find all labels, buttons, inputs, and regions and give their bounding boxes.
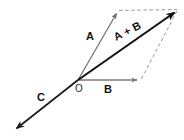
origin-label: O — [75, 84, 83, 94]
vector-diagram-canvas — [0, 0, 184, 140]
vector-c-label: C — [37, 92, 45, 103]
vector-c-arrow — [17, 80, 79, 129]
vector-addition-figure: A A + B B C O — [0, 0, 184, 140]
resultant-a-plus-b-arrow — [78, 13, 175, 81]
dashed-construction-right — [141, 11, 177, 80]
dashed-construction-top — [119, 10, 177, 11]
vector-a-arrow — [78, 14, 117, 81]
vector-b-label: B — [104, 84, 112, 95]
vector-a-label: A — [86, 31, 94, 42]
